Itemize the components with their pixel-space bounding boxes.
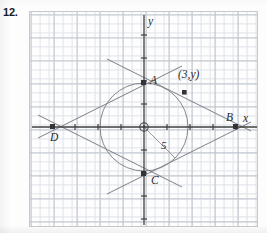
radius-label: 5: [161, 140, 167, 151]
point-marker-P: [182, 90, 187, 95]
figure-page: 12.: [0, 0, 267, 233]
point-label-C: C: [151, 175, 159, 187]
point-label-coordinate: (3,y): [178, 69, 199, 81]
point-label-D: D: [50, 132, 58, 144]
problem-number: 12.: [3, 6, 18, 18]
graph-frame: y x A B C D (3,y) 5: [29, 11, 258, 227]
point-label-B: B: [226, 112, 233, 124]
y-axis-label: y: [148, 16, 153, 28]
point-marker-A: [141, 80, 146, 85]
graph-inner: y x A B C D (3,y) 5: [30, 12, 257, 226]
point-marker-C: [141, 171, 146, 176]
point-marker-D: [50, 124, 55, 129]
point-marker-B: [233, 124, 238, 129]
point-label-A: A: [150, 75, 157, 87]
tangent-line-B-C: [107, 122, 251, 194]
x-axis-label: x: [243, 113, 248, 125]
radius-segment: [144, 127, 175, 158]
plot-svg: [30, 12, 258, 227]
tangent-line-C-D: [38, 115, 182, 187]
